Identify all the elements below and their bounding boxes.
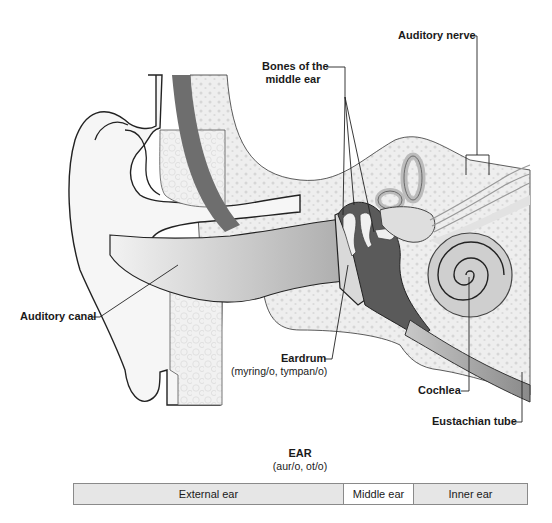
- label-bones-line1: Bones of the: [262, 60, 324, 73]
- label-eardrum-combining-forms: (myring/o, tympan/o): [231, 365, 327, 378]
- label-auditory-nerve: Auditory nerve: [398, 29, 476, 42]
- label-auditory-canal: Auditory canal: [20, 310, 96, 323]
- region-middle-ear-label: Middle ear: [353, 488, 404, 500]
- label-cochlea: Cochlea: [418, 384, 461, 397]
- label-bones-middle-ear: Bones of the middle ear: [262, 60, 324, 86]
- region-inner-ear: Inner ear: [413, 484, 527, 504]
- region-external-ear-label: External ear: [179, 488, 238, 500]
- ear-regions-bar: External ear Middle ear Inner ear: [73, 483, 528, 505]
- label-eustachian-tube: Eustachian tube: [432, 415, 517, 428]
- region-inner-ear-label: Inner ear: [448, 488, 492, 500]
- region-external-ear: External ear: [74, 484, 343, 504]
- ear-title: EAR: [250, 447, 350, 460]
- label-eardrum: Eardrum: [281, 352, 326, 365]
- label-bones-line2: middle ear: [262, 73, 324, 86]
- ear-combining-forms: (aur/o, ot/o): [240, 460, 360, 473]
- cochlea-shape: [428, 233, 512, 317]
- region-middle-ear: Middle ear: [343, 484, 413, 504]
